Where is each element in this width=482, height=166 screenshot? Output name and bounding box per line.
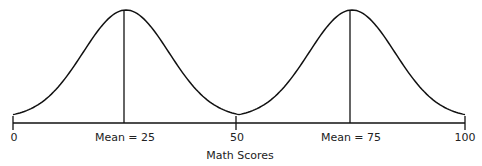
mean-label-75: Mean = 75 (321, 131, 381, 144)
mean-label-25: Mean = 25 (95, 131, 155, 144)
tick-label-0: 0 (11, 131, 18, 144)
curve-mean-75 (239, 10, 465, 115)
tick-label-50: 50 (230, 131, 244, 144)
tick-label-100: 100 (455, 131, 476, 144)
curve-mean-25 (13, 10, 239, 115)
x-axis-label: Math Scores (206, 149, 274, 162)
